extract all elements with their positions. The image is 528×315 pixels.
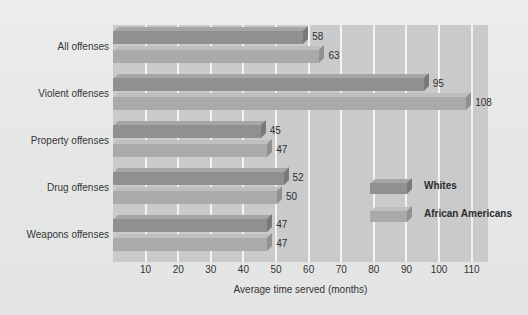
x-axis-ticks: 102030405060708090100110	[113, 264, 488, 280]
bar-shape	[113, 168, 289, 185]
bar-2-1	[113, 140, 272, 157]
bar-shape	[113, 46, 324, 63]
x-tick-30: 30	[205, 264, 216, 275]
bar-shape	[113, 215, 272, 232]
category-axis-labels: All offensesViolent offensesProperty off…	[4, 25, 109, 262]
value-label-0-0: 58	[312, 32, 323, 42]
bar-2-0	[113, 121, 266, 138]
bar-group-1: 95108	[113, 74, 488, 118]
category-label-3: Drug offenses	[5, 182, 109, 193]
category-label-2: Property offenses	[5, 135, 109, 146]
legend-swatch-african-americans	[370, 207, 412, 222]
bar-shape	[113, 187, 282, 204]
bar-0-1	[113, 46, 324, 63]
bar-shape	[113, 234, 272, 251]
bar-1-0	[113, 74, 429, 91]
category-label-1: Violent offenses	[5, 88, 109, 99]
x-tick-60: 60	[303, 264, 314, 275]
legend-item-whites: Whites	[370, 177, 488, 205]
bar-shape	[113, 27, 308, 44]
category-label-0: All offenses	[5, 41, 109, 52]
bar-3-0	[113, 168, 289, 185]
bar-shape	[113, 121, 266, 138]
value-label-3-1: 50	[286, 192, 297, 202]
bar-group-2: 4547	[113, 121, 488, 165]
value-label-4-0: 47	[276, 220, 287, 230]
x-tick-50: 50	[270, 264, 281, 275]
bar-shape	[113, 140, 272, 157]
bar-shape	[113, 74, 429, 91]
x-tick-110: 110	[464, 264, 480, 275]
value-label-0-1: 63	[328, 51, 339, 61]
legend-label-african-americans: African Americans	[424, 208, 512, 219]
value-label-2-0: 45	[270, 126, 281, 136]
bar-shape	[113, 93, 471, 110]
bar-4-1	[113, 234, 272, 251]
value-label-3-0: 52	[293, 173, 304, 183]
bar-0-0	[113, 27, 308, 44]
legend: Whites African Americans	[370, 177, 488, 233]
value-label-1-1: 108	[475, 98, 492, 108]
legend-label-whites: Whites	[424, 180, 457, 191]
bar-4-0	[113, 215, 272, 232]
value-label-1-0: 95	[433, 79, 444, 89]
bar-1-1	[113, 93, 471, 110]
x-tick-10: 10	[140, 264, 151, 275]
legend-item-african-americans: African Americans	[370, 205, 488, 233]
x-axis-title: Average time served (months)	[113, 284, 488, 295]
chart-page: All offensesViolent offensesProperty off…	[0, 0, 528, 315]
plot-area: 586395108454752504747 Whites African Ame…	[113, 25, 488, 262]
x-tick-80: 80	[368, 264, 379, 275]
x-tick-20: 20	[173, 264, 184, 275]
value-label-2-1: 47	[276, 145, 287, 155]
value-label-4-1: 47	[276, 239, 287, 249]
x-tick-40: 40	[238, 264, 249, 275]
bar-group-0: 5863	[113, 27, 488, 71]
x-tick-90: 90	[401, 264, 412, 275]
x-tick-100: 100	[431, 264, 448, 275]
bar-3-1	[113, 187, 282, 204]
category-label-4: Weapons offenses	[5, 229, 109, 240]
legend-swatch-whites	[370, 179, 412, 194]
x-tick-70: 70	[336, 264, 347, 275]
